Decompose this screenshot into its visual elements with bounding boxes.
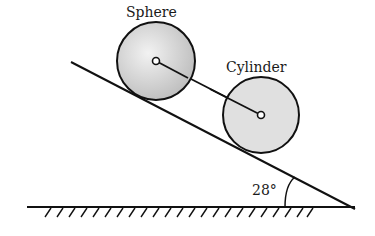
ground-hatching [45, 208, 313, 217]
cylinder-label: Cylinder [226, 59, 287, 75]
angle-arc [285, 177, 295, 207]
incline-diagram: 28° Sphere Cylinder [0, 0, 375, 236]
sphere-axle [153, 58, 160, 65]
incline-surface [71, 62, 355, 209]
cylinder-axle [258, 112, 265, 119]
sphere-label: Sphere [126, 4, 177, 20]
angle-label: 28° [252, 182, 277, 198]
